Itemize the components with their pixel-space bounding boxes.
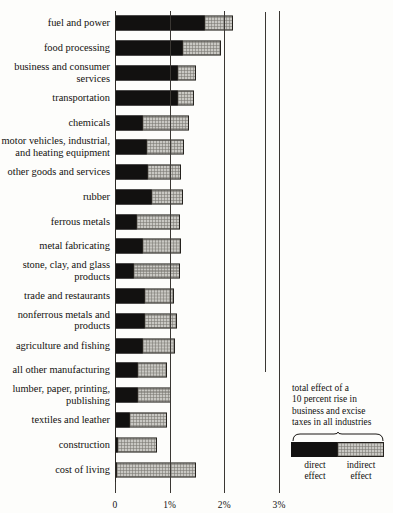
category-label: food processing <box>0 42 110 54</box>
chart-row: construction <box>115 432 290 457</box>
legend-swatch-direct <box>291 442 338 457</box>
bar-segment-indirect <box>177 90 194 105</box>
category-label: lumber, paper, printing, publishing <box>0 384 110 407</box>
category-label: construction <box>0 439 110 451</box>
axis-gridline <box>224 11 225 482</box>
bar-segment-direct <box>115 338 143 353</box>
bar-segment-indirect <box>116 462 196 477</box>
category-label: textiles and leather <box>0 414 110 426</box>
stacked-bar <box>116 165 181 180</box>
stacked-bar <box>116 437 157 452</box>
chart-row: nonferrous metals and products <box>115 308 290 333</box>
bar-segment-direct <box>115 165 148 180</box>
axis-tick-label: 2% <box>218 500 231 510</box>
bar-segment-direct <box>115 115 143 130</box>
stacked-bar <box>116 140 184 155</box>
category-label: transportation <box>0 92 110 104</box>
axis-tick-label: 0 <box>113 500 118 510</box>
stacked-bar <box>116 115 189 130</box>
bar-segment-direct <box>115 214 137 229</box>
bar-segment-direct <box>115 413 130 428</box>
bar-segment-direct <box>115 264 134 279</box>
legend-swatch-indirect <box>337 442 384 457</box>
bar-segment-indirect <box>137 388 171 403</box>
chart-row: other goods and services <box>115 160 290 185</box>
bar-segment-direct <box>115 41 183 56</box>
chart-row: food processing <box>115 36 290 61</box>
chart-row: chemicals <box>115 110 290 135</box>
legend-caption: total effect of a 10 percent rise in bus… <box>292 383 388 429</box>
category-label: stone, clay, and glass products <box>0 260 110 283</box>
stacked-bar <box>116 388 171 403</box>
axis-tick <box>224 482 225 493</box>
category-label: ferrous metals <box>0 216 110 228</box>
bar-segment-direct <box>115 16 205 31</box>
axis-baseline <box>115 11 116 482</box>
stacked-bar <box>116 41 221 56</box>
chart-row: transportation <box>115 85 290 110</box>
bar-segment-indirect <box>129 413 167 428</box>
stacked-bar-chart: fuel and powerfood processingbusiness an… <box>0 0 393 513</box>
bar-segment-indirect <box>137 363 167 378</box>
bar-segment-direct <box>115 313 145 328</box>
chart-row: metal fabricating <box>115 234 290 259</box>
bar-segment-indirect <box>182 41 221 56</box>
category-label: business and consumer services <box>0 61 110 84</box>
chart-legend: total effect of a 10 percent rise in bus… <box>292 383 388 482</box>
axis-gridline <box>170 11 171 482</box>
category-label: rubber <box>0 191 110 203</box>
category-label: metal fabricating <box>0 241 110 253</box>
legend-label-indirect: indirect effect <box>338 460 384 482</box>
bar-segment-direct <box>115 239 143 254</box>
legend-captions: direct effect indirect effect <box>292 460 384 482</box>
bar-segment-direct <box>115 388 138 403</box>
chart-row: agriculture and fishing <box>115 333 290 358</box>
legend-brace-icon <box>292 432 388 442</box>
stacked-bar <box>116 363 167 378</box>
bar-segment-indirect <box>147 165 181 180</box>
category-label: trade and restaurants <box>0 290 110 302</box>
category-label: nonferrous metals and products <box>0 309 110 332</box>
chart-row: textiles and leather <box>115 408 290 433</box>
bar-segment-indirect <box>204 16 233 31</box>
bar-segment-indirect <box>151 189 183 204</box>
chart-row: trade and restaurants <box>115 284 290 309</box>
category-label: motor vehicles, industrial, and heating … <box>0 136 110 159</box>
bar-segment-indirect <box>177 65 196 80</box>
stacked-bar <box>116 189 183 204</box>
axis-tick <box>279 482 280 493</box>
stacked-bar <box>116 16 233 31</box>
category-label: cost of living <box>0 464 110 476</box>
bar-segment-indirect <box>146 140 184 155</box>
chart-row: ferrous metals <box>115 209 290 234</box>
bar-rows: fuel and powerfood processingbusiness an… <box>115 11 290 482</box>
axis-tick <box>170 482 171 493</box>
category-label: agriculture and fishing <box>0 340 110 352</box>
chart-row: lumber, paper, printing, publishing <box>115 383 290 408</box>
plot-area: fuel and powerfood processingbusiness an… <box>115 11 290 493</box>
category-label: all other manufacturing <box>0 365 110 377</box>
stacked-bar <box>116 65 196 80</box>
stacked-bar <box>116 313 177 328</box>
stacked-bar <box>116 413 167 428</box>
chart-row: cost of living <box>115 457 290 482</box>
chart-row: all other manufacturing <box>115 358 290 383</box>
bar-segment-indirect <box>142 239 181 254</box>
category-label: chemicals <box>0 117 110 129</box>
chart-row: motor vehicles, industrial, and heating … <box>115 135 290 160</box>
chart-row: stone, clay, and glass products <box>115 259 290 284</box>
legend-swatches <box>292 442 384 457</box>
stacked-bar <box>116 239 181 254</box>
axis-tick-label: 3% <box>273 500 286 510</box>
axis-gridline <box>279 11 280 482</box>
stacked-bar <box>116 338 175 353</box>
bar-segment-direct <box>115 363 138 378</box>
bar-segment-direct <box>115 189 152 204</box>
bar-segment-indirect <box>144 313 177 328</box>
bar-segment-indirect <box>117 437 157 452</box>
bar-segment-indirect <box>136 214 179 229</box>
category-label: other goods and services <box>0 166 110 178</box>
stacked-bar <box>116 90 194 105</box>
chart-row: fuel and power <box>115 11 290 36</box>
bar-segment-direct <box>115 289 145 304</box>
